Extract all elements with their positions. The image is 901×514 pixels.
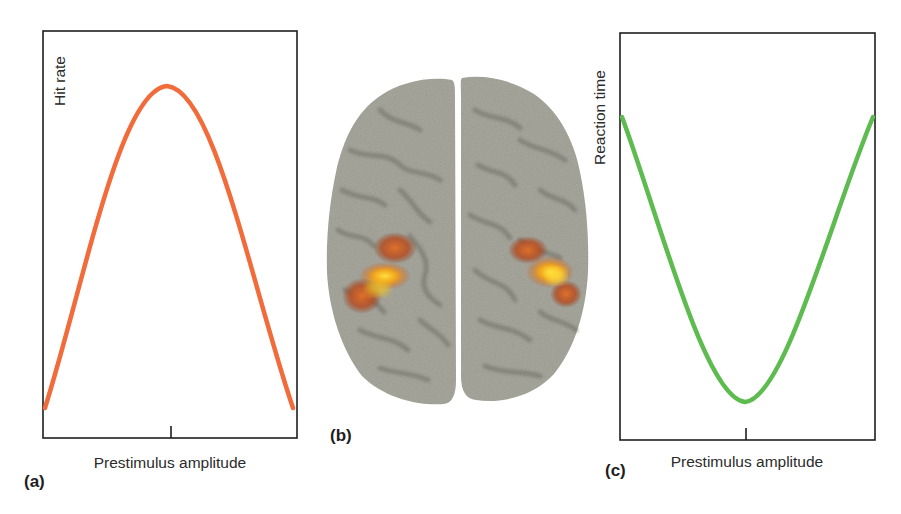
figure-canvas: Hit rate Prestimulus amplitude (a) xyxy=(0,0,901,514)
panel-c-axes-frame xyxy=(620,33,875,440)
panel-b-letter: (b) xyxy=(330,426,352,445)
panel-a-y-axis-label: Hit rate xyxy=(51,56,68,106)
hit-rate-curve xyxy=(45,86,293,408)
panel-c-x-axis-label: Prestimulus amplitude xyxy=(671,453,823,470)
panel-a-letter: (a) xyxy=(24,472,45,491)
panel-c-y-axis-label: Reaction time xyxy=(591,70,608,165)
panel-a-hit-rate-chart: Hit rate Prestimulus amplitude (a) xyxy=(24,31,297,491)
panel-a-axes-frame xyxy=(43,31,297,438)
panel-b-brain-image: (b) xyxy=(327,77,588,445)
reaction-time-curve xyxy=(622,117,873,402)
panel-a-x-axis-label: Prestimulus amplitude xyxy=(94,454,246,471)
panel-c-reaction-time-chart: Reaction time Prestimulus amplitude (c) xyxy=(591,33,875,480)
panel-c-letter: (c) xyxy=(605,461,626,480)
